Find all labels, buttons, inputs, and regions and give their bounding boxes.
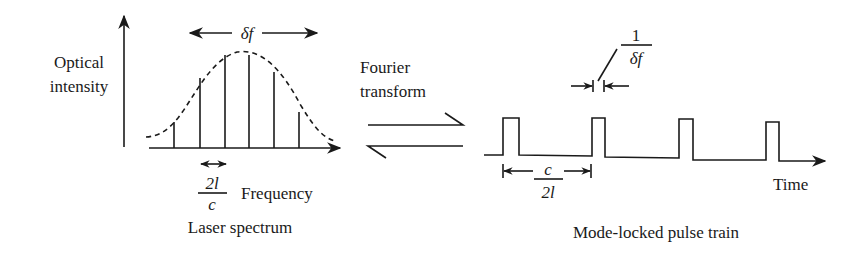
bandwidth-label: δf xyxy=(241,24,256,43)
frequency-axis-label: Frequency xyxy=(241,184,313,203)
inverse-harpoon-icon xyxy=(368,146,463,158)
mode-spacing-denominator: c xyxy=(208,195,216,214)
mode-spacing-numerator: 2l xyxy=(205,174,219,193)
time-axis-label: Time xyxy=(773,175,808,194)
pulse-period-denominator: 2l xyxy=(541,183,555,202)
pulse-train-caption: Mode-locked pulse train xyxy=(573,223,740,242)
forward-harpoon-icon xyxy=(368,113,463,125)
pulse-period-numerator: c xyxy=(544,160,552,179)
fourier-transform-relation: Fourier transform xyxy=(360,58,463,158)
pulse-width-leader-line xyxy=(598,49,617,81)
fourier-label-line2: transform xyxy=(360,82,426,101)
laser-spectrum-panel: Optical intensity δf 2l c Frequency Lase… xyxy=(50,16,340,237)
fourier-label-line1: Fourier xyxy=(360,58,410,77)
pulse-train-waveform xyxy=(484,118,825,161)
pulse-train-panel: 1 δf c 2l Time Mode-locked pulse train xyxy=(484,26,825,242)
y-axis-label-line2: intensity xyxy=(50,77,109,96)
y-axis-label-line1: Optical xyxy=(54,53,104,72)
laser-spectrum-caption: Laser spectrum xyxy=(188,218,292,237)
pulse-width-denominator: δf xyxy=(630,49,645,68)
pulse-width-numerator: 1 xyxy=(632,26,641,45)
diagram-canvas: Optical intensity δf 2l c Frequency Lase… xyxy=(0,0,868,255)
spectral-lines xyxy=(174,55,299,148)
